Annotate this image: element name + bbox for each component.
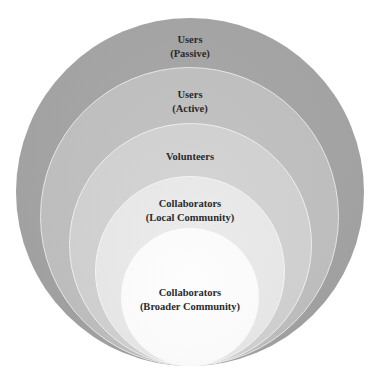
- label-collaborators-local-line1: Collaborators: [0, 197, 380, 211]
- label-collaborators-broader: Collaborators (Broader Community): [0, 286, 380, 314]
- engagement-nested-circles-diagram: Users (Passive) Users (Active) Volunteer…: [0, 0, 380, 383]
- label-users-active-line2: (Active): [0, 102, 380, 116]
- label-users-active: Users (Active): [0, 88, 380, 116]
- label-volunteers: Volunteers: [0, 150, 380, 164]
- label-collaborators-local-line2: (Local Community): [0, 211, 380, 225]
- label-users-passive: Users (Passive): [0, 33, 380, 61]
- label-collaborators-broader-line1: Collaborators: [0, 286, 380, 300]
- label-collaborators-local: Collaborators (Local Community): [0, 197, 380, 225]
- label-users-active-line1: Users: [0, 88, 380, 102]
- label-collaborators-broader-line2: (Broader Community): [0, 300, 380, 314]
- label-users-passive-line1: Users: [0, 33, 380, 47]
- label-volunteers-line1: Volunteers: [0, 150, 380, 164]
- label-users-passive-line2: (Passive): [0, 47, 380, 61]
